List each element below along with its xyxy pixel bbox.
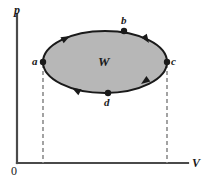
state-point-c-marker (164, 59, 170, 65)
x-axis-label: V (192, 157, 200, 169)
state-point-d-label: d (104, 97, 110, 108)
state-point-c-label: c (171, 56, 176, 67)
origin-label: 0 (11, 165, 17, 177)
work-area-label: W (98, 55, 110, 68)
state-point-a-marker (40, 59, 46, 65)
state-point-b-label: b (121, 15, 127, 26)
y-axis-label: p (14, 4, 20, 16)
pv-diagram-canvas (0, 0, 212, 184)
pv-cycle-figure: p V 0 a b c d W (0, 0, 212, 184)
state-point-a-label: a (32, 56, 38, 67)
state-point-b-marker (121, 28, 127, 34)
